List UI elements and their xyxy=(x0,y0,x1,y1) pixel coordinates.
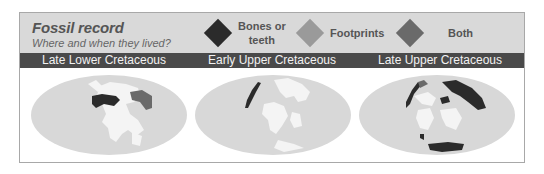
globe-map-icon xyxy=(358,74,516,156)
legend-label-bones-line2: teeth xyxy=(238,33,286,47)
period-label-late-upper: Late Upper Cretaceous xyxy=(356,53,524,68)
map-late-upper-cretaceous xyxy=(358,74,516,156)
diamond-icon xyxy=(296,19,324,47)
map-late-lower-cretaceous xyxy=(30,74,188,156)
maps-row xyxy=(20,68,524,162)
map-early-upper-cretaceous xyxy=(194,74,352,156)
period-bar: Late Lower Cretaceous Early Upper Cretac… xyxy=(20,53,524,68)
header: Fossil record Where and when they lived?… xyxy=(20,13,524,53)
legend-item-footprints: Footprints xyxy=(300,13,384,53)
diamond-icon xyxy=(204,19,232,47)
fossil-record-panel: Fossil record Where and when they lived?… xyxy=(19,12,525,163)
panel-title: Fossil record xyxy=(32,19,124,36)
legend-item-bones: Bones or teeth xyxy=(208,13,286,53)
globe-map-icon xyxy=(30,74,188,156)
legend-label-both: Both xyxy=(448,26,473,40)
legend-label-footprints: Footprints xyxy=(330,26,384,40)
period-label-early-upper: Early Upper Cretaceous xyxy=(188,53,356,68)
globe-map-icon xyxy=(194,74,352,156)
period-label-late-lower: Late Lower Cretaceous xyxy=(20,53,188,68)
legend-item-both: Both xyxy=(400,13,473,53)
legend-label-bones-line1: Bones or xyxy=(238,19,286,33)
panel-subtitle: Where and when they lived? xyxy=(32,37,171,49)
diamond-icon xyxy=(396,19,424,47)
